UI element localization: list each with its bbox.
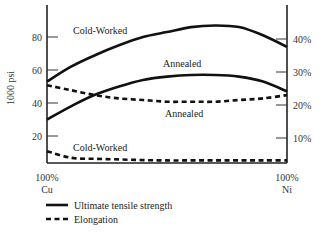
- right-tick-labels: 40% 30% 20% 10%: [293, 34, 311, 144]
- label-cold-worked-tensile: Cold-Worked: [73, 25, 127, 36]
- legend-label-tensile: Ultimate tensile strength: [74, 200, 172, 211]
- left-tick-labels: 80 60 40 20: [32, 32, 42, 142]
- left-tick-20: 20: [32, 131, 42, 142]
- x-label-ni-percent: 100%: [275, 172, 298, 183]
- chart: 80 60 40 20 1000 psi 40% 30% 20% 10% 100…: [0, 0, 326, 238]
- x-label-cu: Cu: [41, 184, 53, 195]
- right-tick-10: 10%: [293, 133, 311, 144]
- left-tick-60: 60: [32, 65, 42, 76]
- legend-label-elongation: Elongation: [74, 214, 118, 225]
- right-tick-30: 30%: [293, 67, 311, 78]
- legend: Ultimate tensile strength Elongation: [46, 200, 172, 225]
- right-tick-20: 20%: [293, 100, 311, 111]
- left-tick-80: 80: [32, 32, 42, 43]
- label-annealed-elongation: Annealed: [165, 108, 203, 119]
- x-label-ni: Ni: [282, 184, 292, 195]
- label-annealed-tensile: Annealed: [163, 58, 201, 69]
- x-label-cu-percent: 100%: [35, 172, 58, 183]
- left-axis-label: 1000 psi: [5, 71, 16, 105]
- series-layer: [47, 25, 287, 160]
- right-tick-40: 40%: [293, 34, 311, 45]
- left-tick-40: 40: [32, 98, 42, 109]
- label-cold-worked-elongation: Cold-Worked: [73, 142, 127, 153]
